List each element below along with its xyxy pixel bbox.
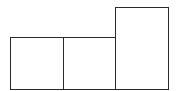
diagram-box-1	[10, 37, 64, 90]
diagram-box-3-tall	[115, 7, 169, 90]
diagram-box-2	[63, 37, 116, 90]
